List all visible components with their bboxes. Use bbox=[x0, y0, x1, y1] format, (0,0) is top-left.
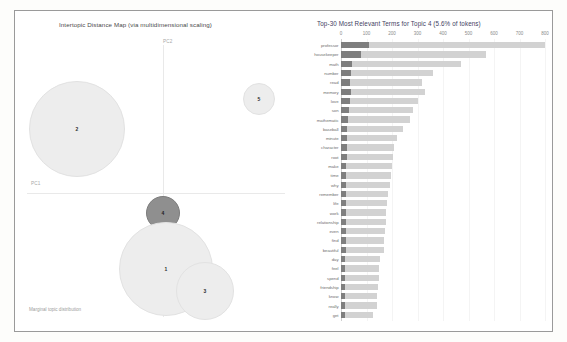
term-label[interactable]: spend bbox=[327, 275, 338, 280]
overall-frequency-bar bbox=[341, 89, 425, 95]
term-label[interactable]: memory bbox=[323, 89, 338, 94]
term-bar-row[interactable]: root bbox=[293, 153, 553, 161]
term-bar-row[interactable]: know bbox=[293, 292, 553, 300]
overall-frequency-bar bbox=[341, 182, 390, 188]
term-label[interactable]: love bbox=[331, 98, 339, 103]
term-bar-row[interactable]: remember bbox=[293, 190, 553, 198]
term-label[interactable]: why bbox=[331, 182, 339, 187]
term-bar-row[interactable]: baseball bbox=[293, 125, 553, 133]
overall-frequency-bar bbox=[341, 284, 378, 290]
term-bar-row[interactable]: friendship bbox=[293, 283, 553, 291]
term-label[interactable]: mathematic bbox=[317, 117, 339, 122]
term-bar-row[interactable]: really bbox=[293, 301, 553, 309]
overall-frequency-bar bbox=[341, 228, 385, 234]
term-bar-row[interactable]: even bbox=[293, 227, 553, 235]
term-bar-row[interactable]: memory bbox=[293, 88, 553, 96]
topic-frequency-bar bbox=[341, 256, 345, 262]
x-axis-tick-label: 700 bbox=[516, 31, 524, 36]
term-bar-row[interactable]: son bbox=[293, 106, 553, 114]
term-label[interactable]: character bbox=[321, 145, 338, 150]
overall-frequency-bar bbox=[341, 135, 397, 141]
term-bar-row[interactable]: life bbox=[293, 199, 553, 207]
term-label[interactable]: professor bbox=[321, 43, 338, 48]
term-label[interactable]: beautiful bbox=[323, 247, 339, 252]
topic-frequency-bar bbox=[341, 247, 346, 253]
pc1-axis-line bbox=[27, 193, 285, 194]
topic-frequency-bar bbox=[341, 200, 346, 206]
overall-frequency-bar bbox=[341, 293, 377, 299]
marginal-topic-distribution-label: Marginal topic distribution bbox=[29, 307, 81, 312]
topic-frequency-bar bbox=[341, 237, 346, 243]
topic-frequency-bar bbox=[341, 293, 345, 299]
term-label[interactable]: number bbox=[324, 71, 338, 76]
overall-frequency-bar bbox=[341, 275, 379, 281]
overall-frequency-bar bbox=[341, 51, 486, 57]
term-bar-row[interactable]: feel bbox=[293, 264, 553, 272]
term-bar-row[interactable]: number bbox=[293, 69, 553, 77]
term-label[interactable]: feel bbox=[332, 266, 339, 271]
term-bar-row[interactable]: minute bbox=[293, 134, 553, 142]
term-label[interactable]: minute bbox=[326, 136, 339, 141]
overall-frequency-bar bbox=[341, 154, 393, 160]
topic-frequency-bar bbox=[341, 265, 345, 271]
term-label[interactable]: know bbox=[329, 294, 339, 299]
term-bar-row[interactable]: relationship bbox=[293, 218, 553, 226]
overall-frequency-bar bbox=[341, 191, 388, 197]
term-bar-row[interactable]: love bbox=[293, 97, 553, 105]
overall-frequency-bar bbox=[341, 61, 461, 67]
term-label[interactable]: read bbox=[330, 80, 338, 85]
overall-frequency-bar bbox=[341, 98, 418, 104]
term-label[interactable]: really bbox=[329, 303, 339, 308]
term-bar-row[interactable]: read bbox=[293, 78, 553, 86]
term-label[interactable]: get bbox=[333, 312, 339, 317]
term-label[interactable]: son bbox=[332, 108, 339, 113]
topic-frequency-bar bbox=[341, 70, 351, 76]
term-bar-row[interactable]: character bbox=[293, 143, 553, 151]
topic-frequency-bar bbox=[341, 107, 349, 113]
topic-circle-label: 3 bbox=[204, 289, 207, 294]
topic-circle-2[interactable]: 2 bbox=[29, 81, 125, 177]
term-bar-row[interactable]: math bbox=[293, 60, 553, 68]
topic-frequency-bar bbox=[341, 154, 347, 160]
term-label[interactable]: work bbox=[330, 210, 339, 215]
topic-circle-3[interactable]: 3 bbox=[176, 262, 234, 320]
topic-circle-5[interactable]: 5 bbox=[243, 83, 275, 115]
overall-frequency-bar bbox=[341, 237, 384, 243]
term-bar-row[interactable]: why bbox=[293, 181, 553, 189]
overall-frequency-bar bbox=[341, 209, 386, 215]
term-bar-row[interactable]: make bbox=[293, 162, 553, 170]
term-bar-row[interactable]: day bbox=[293, 255, 553, 263]
term-bar-row[interactable]: work bbox=[293, 208, 553, 216]
term-bar-row[interactable]: professor bbox=[293, 41, 553, 49]
topic-frequency-bar bbox=[341, 312, 345, 318]
term-label[interactable]: math bbox=[329, 61, 338, 66]
term-bar-row[interactable]: time bbox=[293, 171, 553, 179]
term-label[interactable]: relationship bbox=[317, 219, 338, 224]
term-label[interactable]: day bbox=[332, 257, 339, 262]
term-label[interactable]: baseball bbox=[323, 126, 339, 131]
term-label[interactable]: friendship bbox=[320, 284, 338, 289]
term-bar-row[interactable]: housekeeper bbox=[293, 50, 553, 58]
term-label[interactable]: root bbox=[331, 154, 338, 159]
topic-frequency-bar bbox=[341, 163, 346, 169]
term-bar-row[interactable]: beautiful bbox=[293, 246, 553, 254]
term-label[interactable]: make bbox=[328, 164, 338, 169]
intertopic-distance-map-title: Intertopic Distance Map (via multidimens… bbox=[59, 21, 212, 28]
topic-frequency-bar bbox=[341, 98, 350, 104]
term-label[interactable]: housekeeper bbox=[314, 52, 338, 57]
term-bar-row[interactable]: mathematic bbox=[293, 115, 553, 123]
x-axis-tick-label: 400 bbox=[439, 31, 447, 36]
term-label[interactable]: time bbox=[331, 173, 339, 178]
overall-frequency-bar bbox=[341, 116, 410, 122]
term-bar-row[interactable]: find bbox=[293, 236, 553, 244]
x-axis-tick-label: 600 bbox=[490, 31, 498, 36]
term-bar-row[interactable]: get bbox=[293, 311, 553, 319]
overall-frequency-bar bbox=[341, 256, 380, 262]
term-label[interactable]: remember bbox=[319, 191, 338, 196]
term-label[interactable]: even bbox=[329, 229, 338, 234]
term-label[interactable]: find bbox=[332, 238, 339, 243]
overall-frequency-bar bbox=[341, 70, 433, 76]
term-bar-row[interactable]: spend bbox=[293, 274, 553, 282]
topic-frequency-bar bbox=[341, 126, 347, 132]
term-label[interactable]: life bbox=[333, 201, 338, 206]
